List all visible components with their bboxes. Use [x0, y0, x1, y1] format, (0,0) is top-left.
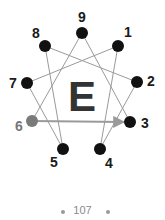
node-label-7: 7 [9, 75, 17, 91]
line-8-5 [45, 46, 63, 149]
node-label-2: 2 [147, 73, 155, 89]
node-8 [39, 40, 51, 52]
node-label-9: 9 [78, 9, 86, 25]
node-label-6: 6 [15, 118, 23, 134]
node-2 [131, 76, 143, 88]
enneagram-diagram: E 912345678 [0, 0, 165, 190]
direction-arrow [32, 121, 124, 122]
center-letter: E [68, 73, 96, 120]
arrow-6-to-3 [32, 121, 124, 122]
node-6 [26, 115, 38, 127]
node-label-3: 3 [141, 115, 149, 131]
node-9 [76, 27, 88, 39]
footer-dot-right [106, 210, 110, 214]
node-3 [124, 116, 136, 128]
page-footer: 107 [0, 202, 165, 220]
node-label-1: 1 [124, 24, 132, 40]
node-4 [94, 143, 106, 155]
node-5 [57, 143, 69, 155]
node-label-4: 4 [105, 155, 113, 171]
node-7 [21, 77, 33, 89]
node-label-5: 5 [50, 154, 58, 170]
node-label-8: 8 [32, 25, 40, 41]
page-number: 107 [0, 204, 165, 216]
node-1 [112, 40, 124, 52]
